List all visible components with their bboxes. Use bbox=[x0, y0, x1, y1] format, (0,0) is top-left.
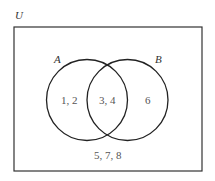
b-only-elements: 6 bbox=[145, 95, 151, 106]
universe-label: U bbox=[15, 10, 23, 21]
set-b-label: B bbox=[155, 54, 162, 65]
a-only-elements: 1, 2 bbox=[61, 95, 78, 106]
set-a-label: A bbox=[54, 54, 61, 65]
intersection-elements: 3, 4 bbox=[99, 95, 116, 106]
outside-elements: 5, 7, 8 bbox=[94, 150, 122, 161]
